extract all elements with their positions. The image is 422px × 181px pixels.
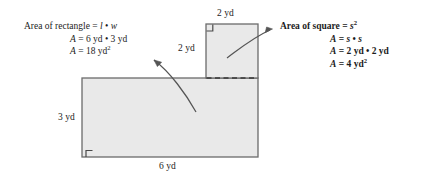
square-expansion-line: A = s • s (280, 33, 389, 46)
dimension-label-square-left: 2 yd (178, 43, 195, 53)
dimension-label-rectangle-left: 3 yd (58, 112, 75, 122)
rectangle-equation-block: Area of rectangle = l • w A = 6 yd • 3 y… (24, 20, 127, 58)
square-equation-block: Area of square = s2 A = s • s A = 2 yd •… (280, 20, 389, 70)
rectangle-shape (82, 78, 258, 157)
rectangle-formula-line: Area of rectangle = l • w (24, 20, 127, 33)
rectangle-result-line: A = 18 yd2 (24, 45, 127, 58)
area-composite-figure: Area of rectangle = l • w A = 6 yd • 3 y… (0, 0, 422, 181)
square-result-line: A = 4 yd2 (280, 58, 389, 71)
square-formula-line: Area of square = s2 (280, 20, 389, 33)
square-substitution-line: A = 2 yd • 2 yd (280, 45, 389, 58)
dimension-label-rectangle-bottom: 6 yd (159, 161, 176, 171)
square-shape (206, 24, 258, 78)
rectangle-substitution-line: A = 6 yd • 3 yd (24, 33, 127, 46)
dimension-label-square-top: 2 yd (217, 8, 234, 18)
square-callout-arrowhead (265, 27, 272, 33)
